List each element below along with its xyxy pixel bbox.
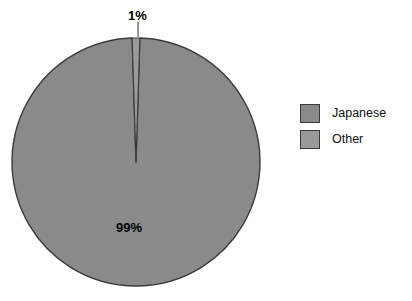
pie-chart: 1% 99% Japanese Other xyxy=(0,0,412,301)
legend-label-other: Other xyxy=(332,133,363,146)
legend-swatch-other xyxy=(300,130,320,149)
slice-label-other: 1% xyxy=(128,8,147,23)
legend-swatch-japanese xyxy=(300,104,320,123)
legend-item-japanese[interactable]: Japanese xyxy=(300,100,412,126)
slice-label-japanese: 99% xyxy=(116,220,142,235)
chart-legend: Japanese Other xyxy=(300,100,412,152)
legend-item-other[interactable]: Other xyxy=(300,126,412,152)
legend-label-japanese: Japanese xyxy=(332,107,386,120)
